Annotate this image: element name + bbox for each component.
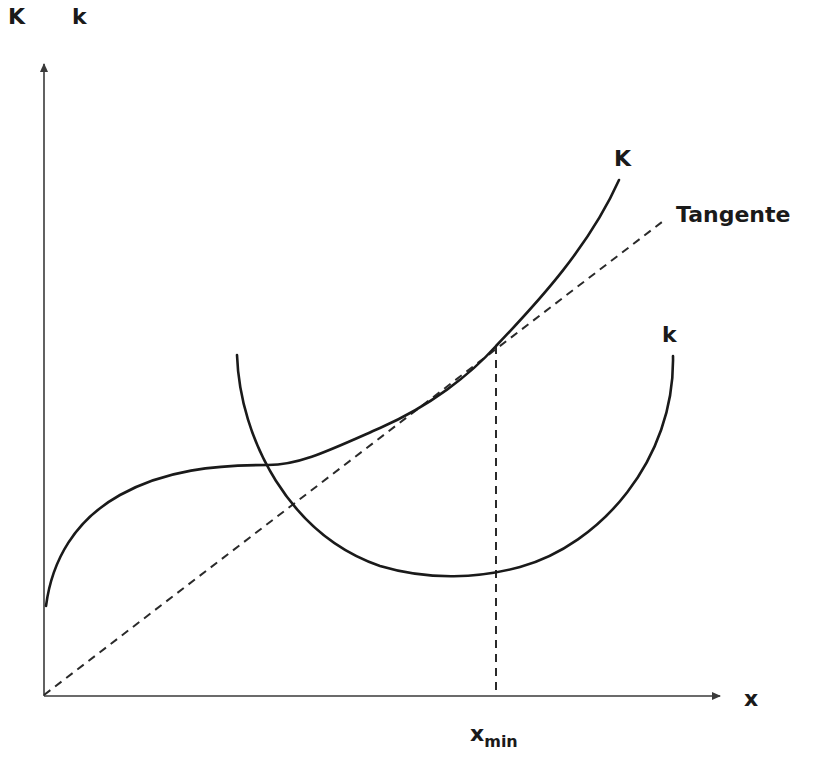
curve-label-k: k bbox=[662, 322, 678, 347]
y-axis-label-k: k bbox=[72, 4, 88, 29]
x-axis-label: x bbox=[744, 686, 758, 711]
average-cost-curve-k bbox=[237, 355, 673, 576]
curve-label-tangente: Tangente bbox=[676, 202, 790, 227]
x-min-label: xmin bbox=[470, 721, 518, 751]
y-axis-label-K: K bbox=[8, 4, 26, 29]
tangent-line bbox=[44, 222, 662, 695]
x-min-subscript: min bbox=[484, 732, 518, 751]
x-min-base: x bbox=[470, 721, 484, 746]
curve-label-K: K bbox=[614, 146, 632, 171]
cost-diagram: K k K Tangente k x xmin bbox=[0, 0, 821, 771]
